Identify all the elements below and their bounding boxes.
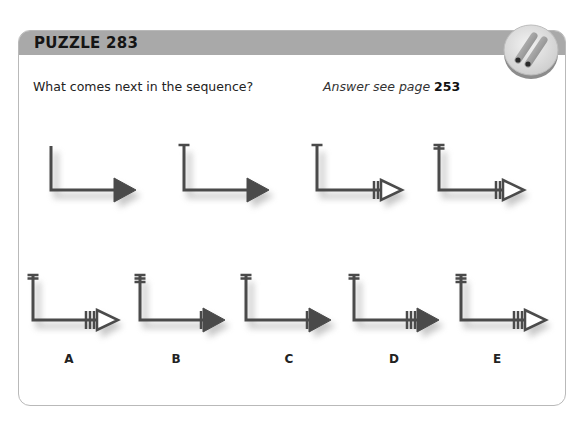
- answer-ref-prefix: Answer see page: [323, 79, 430, 94]
- option-label-d[interactable]: D: [384, 352, 404, 366]
- sequence-figure-2-arrow-icon: [173, 140, 283, 215]
- option-label-e[interactable]: E: [487, 352, 507, 366]
- option-e-arrow-icon[interactable]: [450, 270, 560, 345]
- panel-header: PUZZLE 283: [19, 31, 565, 55]
- sequence-figure-3-arrow-icon: [306, 140, 416, 215]
- option-label-c[interactable]: C: [279, 352, 299, 366]
- option-c-arrow-icon[interactable]: [235, 270, 345, 345]
- brain-badge-icon: [501, 20, 561, 80]
- answer-page-number: 253: [434, 79, 460, 94]
- answer-reference: Answer see page 253: [323, 79, 460, 94]
- option-b-arrow-icon[interactable]: [129, 270, 239, 345]
- option-label-a[interactable]: A: [59, 352, 79, 366]
- puzzle-page: PUZZLE 283 What comes next in the se: [0, 0, 583, 424]
- puzzle-title: PUZZLE 283: [34, 33, 138, 53]
- option-label-b[interactable]: B: [166, 352, 186, 366]
- question-text: What comes next in the sequence?: [33, 79, 253, 94]
- sequence-figure-1-arrow-icon: [40, 140, 150, 215]
- option-a-arrow-icon[interactable]: [22, 270, 132, 345]
- sequence-figure-4-arrow-icon: [428, 140, 538, 215]
- option-d-arrow-icon[interactable]: [343, 270, 453, 345]
